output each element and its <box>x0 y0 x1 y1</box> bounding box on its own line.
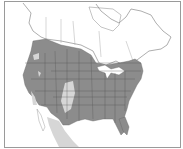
range-light-baja <box>37 109 45 131</box>
map-frame <box>4 1 181 148</box>
hudson-bay-outline <box>89 7 121 31</box>
range-map <box>5 2 180 147</box>
